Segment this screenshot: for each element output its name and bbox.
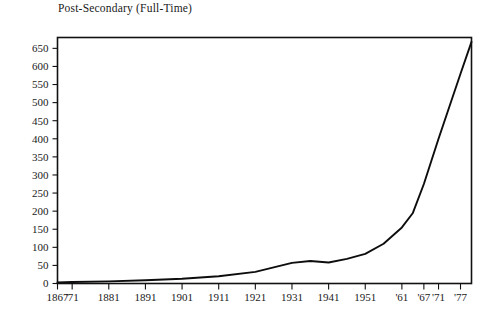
plot-frame — [58, 38, 472, 284]
data-series-line — [58, 42, 472, 283]
x-tick-label: 1941 — [318, 291, 340, 303]
y-tick-label: 300 — [32, 169, 49, 181]
x-tick-label: '71 — [432, 291, 445, 303]
x-tick-label: 1951 — [354, 291, 376, 303]
y-tick-label: 150 — [32, 223, 49, 235]
y-tick-label: 650 — [32, 42, 49, 54]
x-axis-ticks — [58, 284, 461, 290]
x-tick-label: 1931 — [281, 291, 303, 303]
y-tick-label: 550 — [32, 78, 49, 90]
x-tick-label: '67 — [417, 291, 430, 303]
y-tick-label: 400 — [32, 133, 49, 145]
y-tick-label: 100 — [32, 241, 49, 253]
y-tick-label: 450 — [32, 115, 49, 127]
y-tick-label: 600 — [32, 60, 49, 72]
y-tick-label: 500 — [32, 96, 49, 108]
x-tick-label: 1901 — [171, 291, 193, 303]
y-tick-label: 50 — [38, 259, 50, 271]
x-tick-label: 1911 — [208, 291, 230, 303]
figure-container: Post-Secondary (Full-Time) 0501001502002… — [0, 0, 491, 318]
y-tick-label: 200 — [32, 205, 49, 217]
y-tick-label: 250 — [32, 187, 49, 199]
x-tick-label: '77 — [454, 291, 467, 303]
x-tick-label: '61 — [395, 291, 408, 303]
x-tick-label: '71 — [66, 291, 79, 303]
y-tick-label: 0 — [43, 277, 49, 289]
y-tick-label: 350 — [32, 151, 49, 163]
x-tick-label: 1881 — [98, 291, 120, 303]
line-chart: 050100150200250300350400450500550600650 … — [0, 0, 491, 318]
y-axis-tick-labels: 050100150200250300350400450500550600650 — [32, 42, 49, 289]
x-tick-label: 1891 — [134, 291, 156, 303]
x-axis-tick-labels: 1867'7118811891190119111921193119411951'… — [47, 291, 468, 303]
x-tick-label: 1921 — [244, 291, 266, 303]
